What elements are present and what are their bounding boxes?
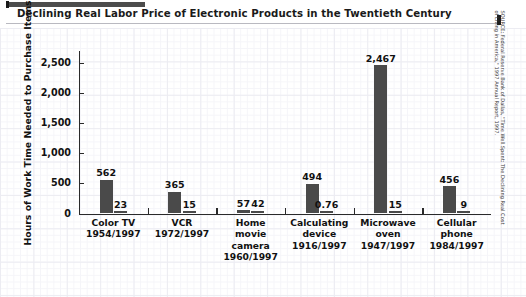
title-divider-rule	[6, 23, 500, 24]
bar-value-label: 0.76	[304, 199, 350, 210]
bar	[320, 211, 333, 213]
y-tick-mark	[79, 123, 84, 124]
bar	[251, 211, 264, 214]
x-axis-tick	[216, 208, 217, 214]
bar-value-label: 42	[235, 198, 281, 209]
bar	[114, 211, 127, 213]
bar-value-label: 23	[98, 199, 144, 210]
y-tick-label: 0	[27, 208, 71, 219]
chart-title: Declining Real Labor Price of Electronic…	[17, 8, 487, 19]
bar-value-label: 456	[426, 174, 472, 185]
bar-value-label: 15	[372, 199, 418, 210]
x-category-label: Color TV 1954/1997	[79, 217, 148, 240]
y-tick-mark	[79, 153, 84, 154]
x-category-label: VCR 1972/1997	[148, 217, 217, 240]
bar	[183, 211, 196, 213]
y-tick-label: 1,000	[27, 147, 71, 158]
bar-value-label: 2,467	[358, 53, 404, 64]
bar	[237, 210, 250, 213]
bar	[374, 65, 387, 213]
y-tick-mark	[79, 93, 84, 94]
x-category-label: Cellular phone 1984/1997	[422, 217, 491, 251]
header-accent-bar-cap	[6, 1, 9, 8]
x-category-label: Home movie camera 1960/1997	[216, 217, 285, 263]
source-note: SOURCE: Federal Reserve Bank of Dallas, …	[494, 10, 507, 272]
x-axis-tick	[422, 208, 423, 214]
bar	[389, 211, 402, 213]
bar	[457, 211, 470, 213]
y-tick-label: 500	[27, 177, 71, 188]
x-axis-tick	[285, 208, 286, 214]
x-category-label: Calculating device 1916/1997	[285, 217, 354, 251]
y-tick-label: 2,000	[27, 87, 71, 98]
y-tick-mark	[79, 183, 84, 184]
x-axis-tick	[148, 208, 149, 214]
bar-value-label: 494	[289, 171, 335, 182]
bar-value-label: 562	[83, 167, 129, 178]
y-axis-line	[79, 51, 80, 214]
y-tick-mark	[79, 63, 84, 64]
x-category-label: Microwave oven 1947/1997	[354, 217, 423, 251]
y-tick-label: 2,500	[27, 57, 71, 68]
y-tick-label: 1,500	[27, 117, 71, 128]
chart-figure: Declining Real Labor Price of Electronic…	[0, 0, 526, 297]
x-axis-tick	[354, 208, 355, 214]
bar-value-label: 15	[166, 199, 212, 210]
bar-value-label: 365	[152, 179, 198, 190]
bar-value-label: 9	[441, 199, 487, 210]
